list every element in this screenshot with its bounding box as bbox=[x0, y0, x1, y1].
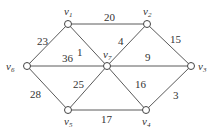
edge-weight-label: 1 bbox=[77, 46, 83, 58]
edge-weight-label: 17 bbox=[101, 113, 113, 125]
node-v4 bbox=[143, 107, 150, 114]
edge-weight-label: 36 bbox=[62, 52, 74, 64]
edge-weight-label: 15 bbox=[170, 33, 182, 45]
node-label-v6: v6 bbox=[6, 60, 15, 74]
edge-weight-label: 3 bbox=[173, 89, 179, 101]
edge-v1-v7 bbox=[68, 24, 107, 66]
node-label-v4: v4 bbox=[142, 115, 151, 129]
node-v7 bbox=[104, 63, 111, 70]
edge-weight-label: 9 bbox=[145, 51, 151, 63]
node-label-v5: v5 bbox=[64, 115, 73, 129]
edge-weight-label: 20 bbox=[104, 11, 116, 23]
node-label-v1: v1 bbox=[64, 5, 72, 19]
node-label-v2: v2 bbox=[143, 5, 152, 19]
edge-v2-v7 bbox=[107, 24, 147, 66]
node-v3 bbox=[188, 63, 195, 70]
edge-v2-v3 bbox=[147, 24, 191, 66]
node-v1 bbox=[65, 21, 72, 28]
edge-weight-label: 16 bbox=[135, 78, 147, 90]
node-v2 bbox=[144, 21, 151, 28]
edge-weight-label: 25 bbox=[73, 78, 85, 90]
edge-weight-label: 28 bbox=[30, 88, 42, 100]
node-label-v7: v7 bbox=[103, 48, 112, 62]
node-v5 bbox=[65, 107, 72, 114]
edge-weight-label: 4 bbox=[118, 35, 124, 47]
weighted-graph-diagram: 20231364159282516317 v1v2v3v4v5v6v7 bbox=[0, 0, 213, 135]
edge-v3-v4 bbox=[146, 66, 191, 110]
nodes-layer bbox=[24, 21, 195, 114]
edge-weight-label: 23 bbox=[37, 35, 49, 47]
node-label-v3: v3 bbox=[198, 60, 207, 74]
node-v6 bbox=[24, 63, 31, 70]
